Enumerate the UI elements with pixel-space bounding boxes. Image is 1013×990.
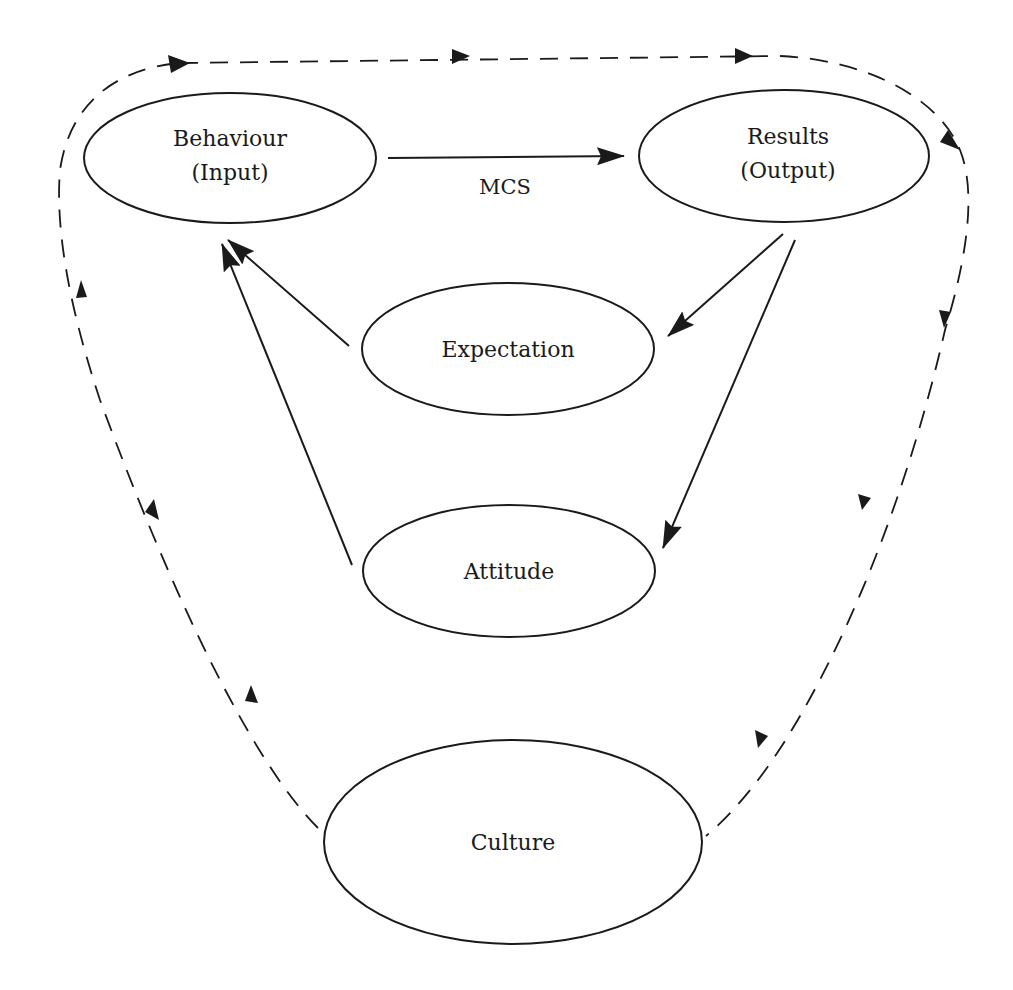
loop-arrow-icon: [452, 49, 470, 64]
dashed-path-left: [59, 63, 318, 828]
node-behaviour: Behaviour (Input): [84, 93, 376, 223]
loop-arrow-icon: [858, 494, 871, 510]
node-attitude-label: Attitude: [463, 559, 554, 584]
loop-arrow-icon: [939, 310, 951, 328]
edge-label-mcs: MCS: [479, 175, 531, 199]
edge-expectation-to-behaviour: [228, 240, 349, 346]
node-behaviour-label-line2: (Input): [191, 160, 268, 185]
node-culture-label: Culture: [471, 830, 556, 855]
node-attitude: Attitude: [363, 505, 655, 637]
loop-arrow-icon: [168, 55, 190, 73]
edge-results-to-expectation: [668, 234, 783, 336]
node-expectation-label: Expectation: [441, 337, 574, 362]
edge-results-to-attitude: [663, 240, 795, 548]
culture-mcs-diagram: MCS Behaviour (Input) Results (Output) E…: [0, 0, 1013, 990]
node-results: Results (Output): [639, 90, 929, 222]
node-results-label-line2: (Output): [740, 158, 835, 183]
node-behaviour-label-line1: Behaviour: [173, 126, 287, 151]
node-results-label-line1: Results: [747, 124, 829, 149]
edge-behaviour-to-results: [388, 156, 624, 158]
dashed-path-top: [180, 56, 780, 63]
loop-arrow-icon: [735, 48, 753, 64]
loop-arrow-icon: [245, 685, 258, 703]
node-expectation: Expectation: [362, 283, 654, 415]
node-culture: Culture: [324, 740, 702, 944]
loop-arrow-icon: [76, 280, 87, 298]
loop-arrow-icon: [755, 730, 768, 748]
loop-arrow-icon: [145, 499, 159, 520]
